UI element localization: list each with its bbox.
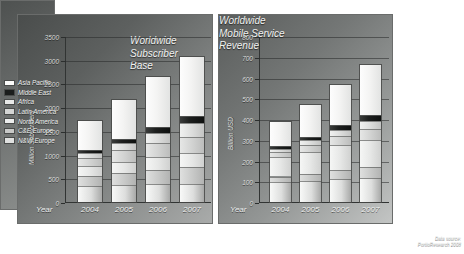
y-axis-tick: [61, 156, 65, 157]
bar-segment-africa: [360, 121, 381, 129]
x-axis-label-2005: 2005: [111, 205, 137, 214]
legend-swatch-icon: [4, 99, 15, 106]
y-axis-tick-label: 400: [242, 117, 253, 124]
legend-swatch-icon: [4, 89, 15, 96]
data-source-value: PortioResearch 2008: [3, 242, 461, 248]
legend-item-north-america: North America: [4, 116, 58, 126]
x-axis-label-2005: 2005: [299, 205, 322, 214]
y-axis-tick-label: 300: [242, 137, 253, 144]
data-source-note: Data source: PortioResearch 2008: [3, 236, 461, 248]
y-axis-title-mobile-service-revenue: Billion USD: [227, 117, 234, 150]
bar-segment-africa: [300, 140, 321, 144]
plot-area-subscriber-base: 0500100015002000250030003500: [65, 37, 205, 203]
bar-segment-me: [146, 127, 170, 132]
x-axis-title: Year: [230, 205, 246, 214]
bar-segment-asia: [360, 64, 381, 115]
legend-swatch-icon: [4, 80, 15, 87]
y-axis-tick-label: 0: [55, 200, 59, 207]
y-axis-tick-label: 1000: [45, 152, 59, 159]
bar-segment-na: [300, 152, 321, 174]
legend-item-n-w-europe: N&W Europe: [4, 136, 58, 146]
bar-segment-asia: [330, 84, 351, 126]
legend-item-latin-america: Latin America: [4, 107, 58, 117]
legend-item-africa: Africa: [4, 97, 58, 107]
bar-segment-nwe: [78, 186, 102, 202]
figure-root: Worldwide Subscriber Base Million Subscr…: [0, 0, 464, 254]
bar-segment-me: [270, 146, 291, 149]
y-axis-tick-label: 100: [242, 179, 253, 186]
y-axis-tick-label: 500: [48, 176, 59, 183]
bar-segment-latam: [330, 136, 351, 145]
gridline: [259, 37, 389, 38]
bar-segment-latam: [112, 150, 136, 161]
y-axis-tick: [255, 99, 259, 100]
bar-segment-asia: [78, 120, 102, 150]
y-axis-tick-label: 700: [242, 54, 253, 61]
y-axis-tick: [255, 141, 259, 142]
x-axis-label-2004: 2004: [269, 205, 292, 214]
y-axis-tick: [255, 79, 259, 80]
bar-segment-na: [112, 162, 136, 173]
bar-segment-cee: [330, 170, 351, 179]
y-axis-tick-label: 3500: [45, 34, 59, 41]
x-axis-label-2004: 2004: [77, 205, 103, 214]
bar-segment-na: [270, 157, 291, 176]
x-axis-label-2006: 2006: [329, 205, 352, 214]
bar-segment-latam: [300, 145, 321, 152]
bar-2005: [299, 104, 322, 203]
y-axis-tick: [255, 182, 259, 183]
y-axis-tick: [255, 120, 259, 121]
bar-segment-latam: [78, 158, 102, 167]
x-axis-label-2007: 2007: [359, 205, 382, 214]
bar-segment-nwe: [180, 184, 204, 202]
bar-segment-asia: [270, 121, 291, 146]
bar-segment-nwe: [360, 178, 381, 202]
y-axis-tick: [255, 162, 259, 163]
legend-swatch-icon: [4, 128, 15, 135]
bar-segment-me: [78, 150, 102, 153]
legend-label: North America: [18, 118, 58, 125]
bar-segment-na: [78, 166, 102, 176]
y-axis-tick: [255, 203, 259, 204]
bar-segment-cee: [300, 174, 321, 181]
y-axis-tick-label: 800: [242, 34, 253, 41]
bar-segment-africa: [270, 149, 291, 152]
bar-segment-africa: [112, 143, 136, 150]
y-axis-tick: [61, 203, 65, 204]
y-axis-tick-label: 3000: [45, 57, 59, 64]
bar-segment-nwe: [146, 184, 170, 202]
legend-item-middle-east: Middle East: [4, 88, 58, 98]
bar-segment-na: [330, 145, 351, 170]
legend-label: N&W Europe: [18, 137, 55, 144]
bar-segment-me: [112, 139, 136, 143]
y-axis-tick-label: 500: [242, 96, 253, 103]
x-axis-label-2006: 2006: [145, 205, 171, 214]
bar-2005: [111, 99, 137, 203]
bar-segment-asia: [112, 99, 136, 139]
y-axis-tick: [61, 132, 65, 133]
bar-segment-africa: [78, 153, 102, 158]
y-axis-tick: [61, 84, 65, 85]
legend-label: Africa: [18, 98, 34, 105]
bar-2004: [269, 121, 292, 203]
bar-segment-africa: [146, 133, 170, 143]
legend-swatch-icon: [4, 118, 15, 125]
y-axis-tick-label: 0: [249, 200, 253, 207]
bar-segment-africa: [330, 130, 351, 136]
plot-area-mobile-service-revenue: 0100200300400500600700800: [259, 37, 383, 203]
bar-segment-me: [300, 137, 321, 141]
bar-segment-nwe: [300, 181, 321, 202]
y-axis-line: [65, 37, 66, 203]
bar-segment-na: [146, 157, 170, 170]
bar-2004: [77, 120, 103, 203]
bar-2007: [179, 56, 205, 203]
chart-panel-mobile-service-revenue: Worldwide Mobile Service Revenue Billion…: [218, 14, 393, 224]
legend-label: C&E Europe: [18, 127, 53, 134]
legend-swatch-icon: [4, 137, 15, 144]
bar-segment-me: [360, 115, 381, 121]
legend-swatch-icon: [4, 108, 15, 115]
y-axis-tick: [61, 108, 65, 109]
bar-segment-nwe: [270, 182, 291, 202]
bar-segment-cee: [360, 167, 381, 178]
bar-segment-latam: [270, 152, 291, 158]
